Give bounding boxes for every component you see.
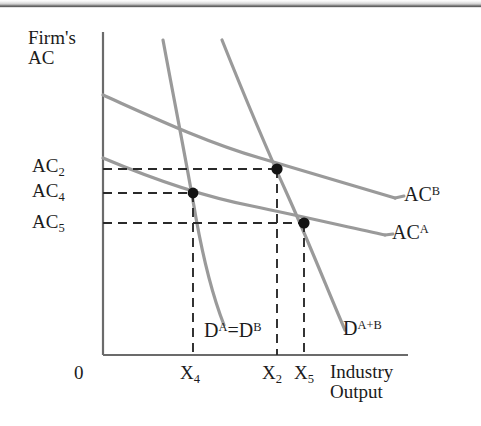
point-x5-ac5 — [298, 217, 309, 228]
curve-label-demand-equals: = — [227, 319, 238, 341]
y-tick-ac2-base: AC — [32, 155, 58, 176]
curve-demand-a-equals-b — [163, 40, 224, 325]
demand-curves — [163, 40, 345, 330]
curve-demand-a-plus-b — [222, 40, 345, 330]
x-tick-x5-base: X — [294, 362, 308, 383]
curve-ac-b — [103, 95, 395, 198]
y-tick-label-ac5: AC5 — [32, 212, 65, 235]
x-tick-x5-subscript: 5 — [308, 372, 314, 386]
x-tick-x2-base: X — [262, 362, 276, 383]
curve-label-demand-ab-base: D — [343, 317, 357, 339]
y-tick-ac5-base: AC — [32, 211, 58, 232]
curve-label-ac-b-superscript: B — [432, 184, 440, 198]
y-tick-ac4-base: AC — [32, 180, 58, 201]
y-tick-ac5-subscript: 5 — [58, 221, 64, 235]
curve-label-demand-a-base: D — [204, 319, 218, 341]
point-x2-ac2 — [271, 163, 282, 174]
curve-label-demand-a-equals-b: DA=DB — [204, 320, 261, 341]
x-axis-title-line1: Industry — [330, 361, 393, 382]
curve-label-ac-b-base: AC — [404, 183, 432, 205]
y-axis-title-line1: Firm's — [28, 27, 76, 48]
x-axis-title-line2: Output — [330, 382, 393, 402]
x-axis-title: Industry Output — [330, 362, 393, 402]
x-tick-label-x4: X4 — [180, 363, 200, 386]
x-tick-x4-subscript: 4 — [194, 372, 200, 386]
curve-label-demand-ab-superscript: A+B — [357, 318, 381, 332]
curve-label-ac-a: ACA — [392, 222, 429, 243]
y-axis-title: Firm's AC — [28, 28, 76, 68]
point-x4-ac4 — [188, 188, 199, 199]
y-axis-title-line2: AC — [28, 48, 76, 68]
leader-ac-b — [395, 196, 404, 198]
y-tick-ac2-subscript: 2 — [58, 165, 64, 179]
curve-label-demand-b-base: D — [239, 319, 253, 341]
x-tick-x4-base: X — [180, 362, 194, 383]
economics-cost-demand-figure: Firm's AC Industry Output AC2 AC4 AC5 0 … — [0, 0, 481, 426]
curve-label-ac-b: ACB — [404, 184, 440, 205]
y-tick-label-ac2: AC2 — [32, 156, 65, 179]
x-tick-label-x2: X2 — [262, 363, 282, 386]
y-tick-ac4-subscript: 4 — [58, 190, 64, 204]
curve-label-ac-a-superscript: A — [420, 222, 429, 236]
origin-label: 0 — [74, 363, 84, 383]
curve-label-demand-b-superscript: B — [253, 320, 261, 334]
average-cost-curves — [103, 95, 395, 235]
x-tick-label-x5: X5 — [294, 363, 314, 386]
x-tick-x2-subscript: 2 — [276, 372, 282, 386]
curve-label-demand-a-plus-b: DA+B — [343, 318, 382, 339]
curve-label-ac-a-base: AC — [392, 221, 420, 243]
y-tick-label-ac4: AC4 — [32, 181, 65, 204]
